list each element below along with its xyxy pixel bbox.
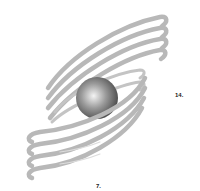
- figure-label-bottom: 7.: [96, 183, 101, 189]
- sphere-rings-logo: [0, 0, 200, 191]
- figure-label-right: 14.: [175, 92, 183, 98]
- sphere: [76, 77, 118, 119]
